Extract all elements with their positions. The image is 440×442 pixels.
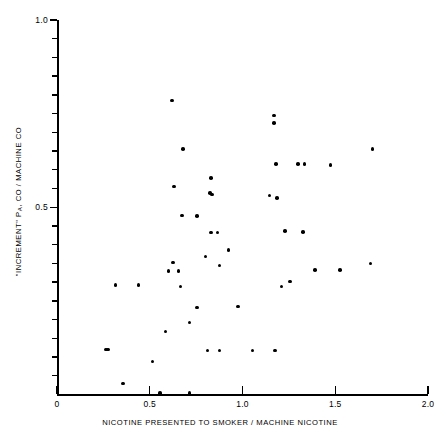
y-axis-title: "INCREMENT" PA, CO / MACHINE CO: [14, 87, 23, 317]
data-point: [268, 194, 272, 198]
data-point: [167, 269, 171, 273]
data-point: [301, 230, 305, 234]
data-point: [227, 248, 231, 252]
data-point: [179, 285, 183, 289]
data-point: [137, 283, 141, 287]
data-point: [236, 305, 240, 309]
data-point: [274, 162, 278, 166]
data-point: [209, 231, 213, 235]
data-point: [206, 349, 210, 353]
data-point: [272, 114, 276, 118]
data-point: [181, 147, 185, 151]
y-tick-label: 0.5: [22, 202, 48, 212]
data-point: [151, 360, 155, 364]
data-point: [188, 391, 192, 395]
data-point: [171, 261, 175, 265]
data-point: [303, 162, 307, 166]
data-point: [283, 229, 287, 233]
scatter-plot-figure: 00.51.01.52.00.51.0 "INCREMENT" PA, CO /…: [0, 0, 440, 442]
data-point: [172, 185, 176, 189]
data-point: [251, 349, 255, 353]
data-point: [195, 306, 199, 310]
data-point: [164, 330, 168, 334]
x-tick-label: 0: [42, 399, 72, 409]
x-tick-label: 2.0: [413, 399, 440, 409]
data-point: [204, 255, 208, 259]
data-point: [218, 264, 222, 268]
data-point: [218, 349, 222, 353]
data-point: [177, 269, 181, 273]
data-point: [216, 231, 220, 235]
data-point: [313, 268, 317, 272]
y-tick-major: [50, 207, 57, 208]
data-point: [210, 193, 214, 197]
data-point: [280, 285, 284, 289]
data-point: [338, 268, 342, 272]
data-point: [371, 147, 375, 151]
data-point: [275, 196, 279, 200]
data-point: [170, 99, 174, 103]
plot-data-area: [57, 20, 428, 395]
x-tick-label: 1.0: [228, 399, 258, 409]
data-point: [329, 163, 333, 167]
data-point: [106, 348, 110, 352]
data-point: [209, 176, 213, 180]
x-tick-label: 1.5: [320, 399, 350, 409]
x-axis-title: NICOTINE PRESENTED TO SMOKER / MACHINE N…: [0, 418, 440, 427]
data-point: [195, 214, 199, 218]
data-point: [114, 283, 118, 287]
data-point: [288, 280, 292, 284]
y-tick-label: 1.0: [22, 15, 48, 25]
data-point: [158, 391, 162, 395]
data-point: [273, 349, 277, 353]
data-point: [188, 321, 192, 325]
y-axis-title-suffix: , CO / MACHINE CO: [14, 127, 23, 207]
data-point: [121, 382, 125, 386]
data-point: [180, 214, 184, 218]
y-axis-title-prefix: "INCREMENT" P: [14, 211, 23, 276]
data-point: [272, 121, 276, 125]
y-axis-title-subscript: A: [16, 207, 23, 212]
x-tick-label: 0.5: [135, 399, 165, 409]
y-tick-major: [50, 19, 57, 20]
data-point: [369, 262, 373, 266]
data-point: [296, 162, 300, 166]
